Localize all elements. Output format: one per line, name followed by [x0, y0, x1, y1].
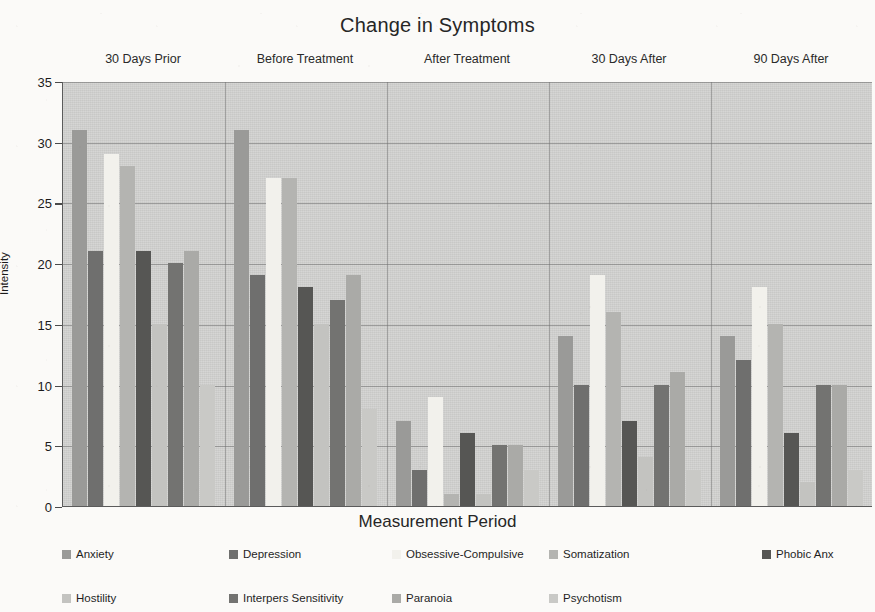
y-tick-label-30: 30: [6, 135, 52, 150]
legend-item[interactable]: Interpers Sensitivity: [229, 592, 343, 604]
bar[interactable]: [234, 130, 249, 506]
y-tick-mark-20: [55, 264, 62, 265]
legend-item[interactable]: Anxiety: [62, 548, 114, 560]
legend-label: Hostility: [76, 592, 116, 604]
legend-swatch-icon: [549, 594, 558, 603]
legend-item[interactable]: Hostility: [62, 592, 116, 604]
y-tick-mark-30: [55, 143, 62, 144]
y-tick-mark-15: [55, 325, 62, 326]
legend-label: Interpers Sensitivity: [243, 592, 343, 604]
bar[interactable]: [330, 300, 345, 506]
bar[interactable]: [266, 178, 281, 506]
bar[interactable]: [768, 324, 783, 506]
bar[interactable]: [800, 482, 815, 506]
bar[interactable]: [848, 470, 863, 506]
bar[interactable]: [508, 445, 523, 506]
legend-item[interactable]: Depression: [229, 548, 301, 560]
group-label-1: Before Treatment: [224, 52, 386, 74]
bar[interactable]: [88, 251, 103, 506]
bar[interactable]: [412, 470, 427, 506]
chart-title: Change in Symptoms: [0, 14, 875, 37]
y-tick-mark-0: [55, 507, 62, 508]
bar[interactable]: [492, 445, 507, 506]
bar[interactable]: [654, 385, 669, 506]
y-tick-mark-35: [55, 82, 62, 83]
legend-label: Psychotism: [563, 592, 622, 604]
legend-label: Depression: [243, 548, 301, 560]
bar[interactable]: [832, 385, 847, 506]
bar[interactable]: [444, 494, 459, 506]
bar[interactable]: [136, 251, 151, 506]
bar[interactable]: [686, 470, 701, 506]
x-axis-title: Measurement Period: [0, 512, 875, 532]
bar[interactable]: [622, 421, 637, 506]
y-tick-label-25: 25: [6, 196, 52, 211]
bar[interactable]: [396, 421, 411, 506]
bar[interactable]: [120, 166, 135, 506]
bar[interactable]: [558, 336, 573, 506]
bar[interactable]: [590, 275, 605, 506]
bar[interactable]: [574, 385, 589, 506]
legend-item[interactable]: Phobic Anx: [762, 548, 834, 560]
legend-swatch-icon: [62, 550, 71, 559]
legend-swatch-icon: [229, 550, 238, 559]
bar[interactable]: [752, 287, 767, 506]
bar[interactable]: [152, 324, 167, 506]
bar[interactable]: [184, 251, 199, 506]
bar-group-2: [387, 82, 549, 506]
legend-swatch-icon: [392, 550, 401, 559]
bar[interactable]: [250, 275, 265, 506]
bar-group-1: [225, 82, 387, 506]
legend-label: Phobic Anx: [776, 548, 834, 560]
bar[interactable]: [784, 433, 799, 506]
bar-group-4: [711, 82, 873, 506]
y-axis-title: Intensity: [0, 252, 10, 295]
legend-swatch-icon: [229, 594, 238, 603]
legend-swatch-icon: [62, 594, 71, 603]
y-tick-label-5: 5: [6, 439, 52, 454]
legend-row-0: AnxietyDepressionObsessive-CompulsiveSom…: [62, 548, 862, 568]
bar[interactable]: [298, 287, 313, 506]
bar[interactable]: [72, 130, 87, 506]
bar[interactable]: [314, 324, 329, 506]
y-tick-label-10: 10: [6, 378, 52, 393]
group-label-row: 30 Days PriorBefore TreatmentAfter Treat…: [62, 52, 872, 74]
y-tick-label-35: 35: [6, 75, 52, 90]
bar[interactable]: [638, 457, 653, 506]
legend-item[interactable]: Obsessive-Compulsive: [392, 548, 524, 560]
legend-item[interactable]: Paranoia: [392, 592, 452, 604]
legend-swatch-icon: [392, 594, 401, 603]
bar[interactable]: [736, 360, 751, 506]
legend-item[interactable]: Somatization: [549, 548, 629, 560]
y-tick-mark-25: [55, 203, 62, 204]
group-label-0: 30 Days Prior: [62, 52, 224, 74]
group-label-3: 30 Days After: [548, 52, 710, 74]
bar[interactable]: [816, 385, 831, 506]
bar[interactable]: [200, 385, 215, 506]
bar[interactable]: [428, 397, 443, 506]
legend-swatch-icon: [762, 550, 771, 559]
bar[interactable]: [362, 409, 377, 506]
legend-label: Anxiety: [76, 548, 114, 560]
legend-row-1: HostilityInterpers SensitivityParanoiaPs…: [62, 572, 862, 592]
legend-label: Somatization: [563, 548, 629, 560]
y-tick-mark-10: [55, 386, 62, 387]
group-label-2: After Treatment: [386, 52, 548, 74]
bar[interactable]: [168, 263, 183, 506]
group-label-4: 90 Days After: [710, 52, 872, 74]
legend-label: Paranoia: [406, 592, 452, 604]
legend-item[interactable]: Psychotism: [549, 592, 622, 604]
bar[interactable]: [282, 178, 297, 506]
bar-group-0: [63, 82, 225, 506]
bar[interactable]: [460, 433, 475, 506]
bar[interactable]: [524, 470, 539, 506]
bar[interactable]: [104, 154, 119, 506]
bar[interactable]: [720, 336, 735, 506]
bar[interactable]: [476, 494, 491, 506]
chart-legend: AnxietyDepressionObsessive-CompulsiveSom…: [62, 548, 862, 596]
bar[interactable]: [346, 275, 361, 506]
y-tick-mark-5: [55, 446, 62, 447]
bar[interactable]: [606, 312, 621, 506]
bar[interactable]: [670, 372, 685, 506]
y-tick-label-15: 15: [6, 317, 52, 332]
